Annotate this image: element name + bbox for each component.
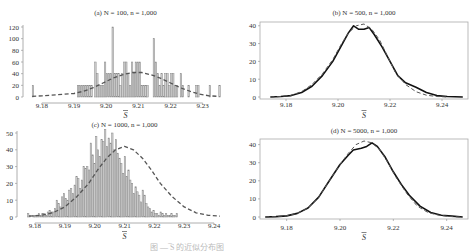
histogram-bar (89, 85, 91, 97)
histogram-bar (196, 85, 198, 97)
histogram-bar (156, 214, 157, 217)
y-tick-label: 60 (12, 59, 20, 67)
y-tick-label: 20 (249, 58, 257, 66)
histogram-bar (112, 27, 114, 97)
histogram-bar (146, 204, 147, 217)
histogram-bar (139, 62, 141, 97)
histogram-bar (27, 214, 28, 217)
histogram-bar (74, 185, 75, 217)
histogram-bar (119, 158, 120, 217)
x-tick-label: 9.18 (29, 222, 42, 230)
histogram-bar (167, 215, 168, 217)
histogram-bar (110, 74, 112, 97)
histogram-bar (174, 215, 175, 217)
histogram-bar (81, 85, 83, 97)
histogram-bar (85, 168, 86, 217)
x-tick-label: 9.20 (100, 102, 113, 110)
histogram-bar (140, 202, 141, 217)
y-tick-label: 20 (6, 180, 14, 188)
histogram-bar (167, 74, 169, 97)
histogram-bar (56, 200, 57, 217)
chart-d: (d) N = 5000, n = 1,0000102030409.189.20… (236, 118, 473, 243)
y-tick-label: 10 (249, 76, 257, 84)
histogram-bar (113, 150, 114, 217)
panel-a: (a) N = 100, n = 1,0000204060801001209.1… (0, 0, 240, 120)
histogram-bar (72, 193, 73, 217)
x-tick-label: 9.18 (36, 102, 49, 110)
x-tick-label: 9.23 (197, 102, 210, 110)
histogram-bar (67, 200, 68, 217)
histogram-bar (101, 140, 102, 217)
histogram-bar (143, 85, 145, 97)
histogram-bar (115, 140, 116, 217)
histogram-bar (198, 85, 200, 97)
y-tick-label: 40 (249, 141, 257, 149)
histogram-bar (163, 85, 165, 97)
histogram-bar (169, 85, 171, 97)
histogram-bar (128, 170, 129, 217)
histogram-bar (161, 74, 163, 97)
histogram-bar (137, 192, 138, 217)
histogram-bar (162, 214, 163, 217)
x-tick-label: 9.21 (118, 222, 131, 230)
histogram-bar (131, 62, 133, 97)
histogram-bar (219, 85, 221, 97)
histogram-bar (112, 133, 113, 217)
y-tick-label: 30 (6, 163, 14, 171)
histogram-bar (81, 180, 82, 217)
x-tick-label: 9.19 (68, 102, 81, 110)
histogram-bar (53, 212, 54, 217)
histogram-bar (151, 212, 152, 217)
y-tick-label: 40 (6, 146, 14, 154)
histogram-bar (91, 85, 93, 97)
histogram-bar (96, 136, 97, 217)
histogram-bar (173, 215, 174, 217)
histogram-bar (102, 85, 104, 97)
figure-caption: 图 — ̅S 的近似分布图 (150, 241, 330, 252)
histogram-bar (149, 209, 150, 217)
panel-b: (b) N = 500, n = 1,0000102030409.189.209… (236, 0, 473, 120)
histogram-bar (92, 155, 93, 217)
histogram-bar (118, 74, 120, 97)
chart-a: (a) N = 100, n = 1,0000204060801001209.1… (0, 0, 240, 120)
y-tick-label: 0 (253, 94, 257, 102)
x-tick-label: 9.24 (208, 222, 221, 230)
histogram-bar (120, 85, 122, 97)
y-tick-label: 0 (253, 214, 257, 222)
histogram-bar (122, 173, 123, 217)
histogram-bar (144, 195, 145, 217)
chart-title: (a) N = 100, n = 1,000 (94, 9, 157, 17)
x-axis-label: S (123, 232, 127, 241)
histogram-bar (106, 74, 108, 97)
histogram-bar (88, 170, 89, 217)
histogram-bar (63, 193, 64, 217)
x-tick-label: 9.20 (89, 222, 102, 230)
empirical-density-line (270, 26, 462, 97)
histogram-bar (169, 215, 170, 217)
histogram-bar (104, 62, 106, 97)
x-tick-label: 9.24 (436, 101, 449, 109)
y-tick-label: 40 (249, 22, 257, 30)
histogram-bar (103, 141, 104, 217)
panel-d: (d) N = 5000, n = 1,0000102030409.189.20… (236, 118, 473, 243)
histogram-bar (54, 209, 55, 217)
y-tick-label: 20 (249, 177, 257, 185)
y-tick-label: 10 (6, 197, 14, 205)
plot-frame (260, 139, 468, 219)
histogram-bar (142, 190, 143, 217)
chart-c: (c) N = 1000, n = 1,000010203040509.189.… (0, 118, 240, 243)
chart-title: (c) N = 1000, n = 1,000 (91, 121, 158, 129)
histogram-bar (129, 85, 131, 97)
histogram-bar (108, 74, 110, 97)
histogram-bar (87, 85, 89, 97)
histogram-bar (45, 215, 46, 217)
empirical-density-line (265, 143, 462, 217)
histogram-bar (106, 146, 107, 217)
histogram-bar (65, 199, 66, 217)
histogram-bar (98, 85, 100, 97)
histogram-bar (62, 197, 63, 217)
histogram-bar (174, 85, 176, 97)
histogram-bar (78, 178, 79, 217)
y-tick-label: 0 (10, 214, 14, 222)
x-tick-label: 9.22 (148, 222, 161, 230)
